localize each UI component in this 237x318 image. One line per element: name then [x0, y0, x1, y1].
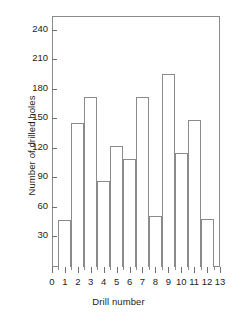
- x-minor-tick-mark: [58, 267, 59, 270]
- x-minor-tick-mark: [201, 267, 202, 270]
- x-minor-tick-mark: [123, 267, 124, 270]
- y-tick-label: 60: [37, 200, 48, 211]
- x-tick-mark: [65, 267, 66, 273]
- bar: [175, 153, 188, 267]
- y-tick-mark: [52, 59, 57, 60]
- bar: [58, 220, 71, 267]
- bar: [97, 181, 110, 267]
- y-tick-mark: [52, 30, 57, 31]
- bar: [123, 159, 136, 267]
- x-minor-tick-mark: [97, 267, 98, 270]
- y-tick-mark: [52, 207, 57, 208]
- x-tick-mark: [142, 267, 143, 273]
- bar: [201, 219, 214, 267]
- y-tick-mark: [52, 148, 57, 149]
- x-minor-tick-mark: [214, 267, 215, 270]
- x-minor-tick-mark: [71, 267, 72, 270]
- y-tick-label: 180: [32, 82, 48, 93]
- bar: [188, 120, 201, 267]
- y-tick-mark: [52, 118, 57, 119]
- y-tick-mark: [52, 236, 57, 237]
- y-tick-label: 30: [37, 229, 48, 240]
- bar: [162, 74, 175, 267]
- x-tick-mark: [130, 267, 131, 273]
- y-tick-label: 240: [32, 23, 48, 34]
- x-axis-title: Drill number: [0, 296, 237, 307]
- x-tick-mark: [220, 267, 221, 273]
- x-tick-mark: [181, 267, 182, 273]
- x-minor-tick-mark: [175, 267, 176, 270]
- x-tick-label: 13: [210, 276, 230, 287]
- x-minor-tick-mark: [110, 267, 111, 270]
- x-tick-mark: [117, 267, 118, 273]
- x-tick-mark: [52, 267, 53, 273]
- x-tick-mark: [78, 267, 79, 273]
- x-minor-tick-mark: [188, 267, 189, 270]
- x-minor-tick-mark: [136, 267, 137, 270]
- y-tick-label: 150: [32, 111, 48, 122]
- bar: [136, 97, 149, 267]
- x-tick-mark: [91, 267, 92, 273]
- y-tick-mark: [52, 89, 57, 90]
- x-minor-tick-mark: [84, 267, 85, 270]
- x-tick-mark: [104, 267, 105, 273]
- x-tick-mark: [194, 267, 195, 273]
- bar: [71, 123, 84, 267]
- x-minor-tick-mark: [149, 267, 150, 270]
- y-tick-mark: [52, 177, 57, 178]
- bar: [84, 97, 97, 267]
- bar-chart-figure: Number of drilled holes 3060901201501802…: [0, 0, 237, 318]
- x-tick-mark: [168, 267, 169, 273]
- bar: [149, 216, 162, 267]
- y-tick-label: 120: [32, 141, 48, 152]
- x-minor-tick-mark: [162, 267, 163, 270]
- y-tick-label: 210: [32, 52, 48, 63]
- bar: [110, 146, 123, 267]
- x-tick-mark: [207, 267, 208, 273]
- x-tick-mark: [155, 267, 156, 273]
- y-tick-label: 90: [37, 170, 48, 181]
